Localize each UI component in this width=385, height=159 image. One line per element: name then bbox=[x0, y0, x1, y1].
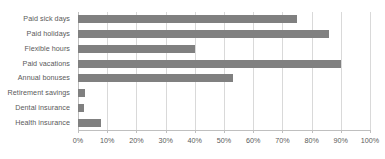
gridline bbox=[370, 12, 371, 130]
axis-tick bbox=[224, 130, 225, 133]
bar bbox=[78, 74, 233, 82]
axis-tick bbox=[195, 130, 196, 133]
value-axis-label: 100% bbox=[350, 136, 385, 145]
axis-tick bbox=[78, 130, 79, 133]
plot-area bbox=[78, 12, 370, 130]
bar bbox=[78, 89, 85, 97]
bar bbox=[78, 15, 297, 23]
bar bbox=[78, 45, 195, 53]
axis-tick bbox=[282, 130, 283, 133]
category-axis-label: Annual bonuses bbox=[0, 74, 70, 82]
category-axis-label: Flexible hours bbox=[0, 45, 70, 53]
axis-tick bbox=[136, 130, 137, 133]
bar-chart: Paid sick daysPaid holidaysFlexible hour… bbox=[0, 0, 385, 159]
category-axis-label: Retirement savings bbox=[0, 89, 70, 97]
value-axis: 0%10%20%30%40%50%60%70%80%90%100% bbox=[0, 136, 385, 150]
bar bbox=[78, 104, 84, 112]
axis-tick bbox=[107, 130, 108, 133]
category-axis-label: Health insurance bbox=[0, 119, 70, 127]
bar bbox=[78, 119, 101, 127]
axis-tick bbox=[253, 130, 254, 133]
category-axis-label: Dental insurance bbox=[0, 104, 70, 112]
category-axis: Paid sick daysPaid holidaysFlexible hour… bbox=[0, 12, 74, 130]
axis-tick bbox=[312, 130, 313, 133]
category-axis-label: Paid sick days bbox=[0, 15, 70, 23]
axis-tick bbox=[370, 130, 371, 133]
bar bbox=[78, 60, 341, 68]
bar bbox=[78, 30, 329, 38]
bar-series bbox=[78, 12, 370, 130]
category-axis-label: Paid holidays bbox=[0, 30, 70, 38]
axis-tick bbox=[166, 130, 167, 133]
category-axis-label: Paid vacations bbox=[0, 60, 70, 68]
axis-tick bbox=[341, 130, 342, 133]
